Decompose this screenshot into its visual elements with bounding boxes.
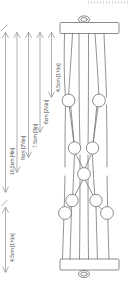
top-hanging-loop: [79, 16, 90, 23]
bead: [93, 94, 106, 107]
dimension-label-6: 4.5cm [1¾in]: [10, 233, 15, 262]
bead: [59, 207, 72, 220]
bead: [101, 207, 114, 220]
panel-group: [59, 16, 119, 278]
dimension-label-5: 4.5cm [1¾in]: [56, 63, 61, 92]
dimension-label-2: 9cm [3½in]: [21, 136, 26, 160]
dimension-line-1: [3, 32, 9, 192]
beads: [59, 94, 114, 219]
bottom-bar: [60, 259, 119, 270]
dimension-label-4: 6cm [2¼in]: [44, 100, 49, 124]
dimension-label-1: 10.5cm [4in]: [10, 148, 15, 175]
diagram-canvas: .ln { stroke:#6e6e6e; stroke-width:.75; …: [0, 0, 132, 284]
dimension-line-6: [3, 207, 9, 272]
dimension-line-3: [26, 32, 32, 157]
bead: [90, 194, 102, 206]
top-bar: [60, 23, 119, 34]
bead: [78, 168, 91, 181]
bead: [62, 94, 75, 107]
bottom-hanging-loop: [79, 270, 90, 277]
bead: [86, 142, 98, 154]
dimension-line-5: [49, 32, 55, 97]
dimension-label-3: 7.5cm [3in]: [33, 124, 38, 148]
bead: [68, 142, 80, 154]
bead: [66, 194, 78, 206]
